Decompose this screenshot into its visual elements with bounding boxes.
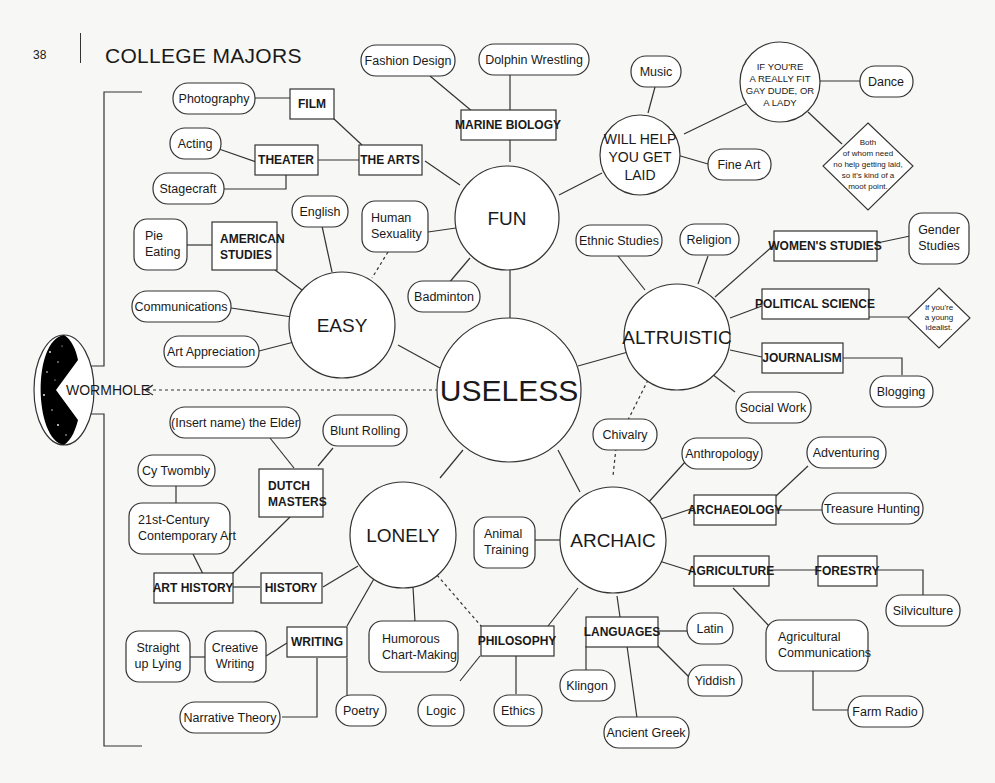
pill-blogging[interactable]: Blogging [870, 376, 933, 407]
box-womens-studies[interactable]: WOMEN'S STUDIES [768, 231, 882, 261]
box-philosophy[interactable]: PHILOSOPHY [478, 626, 557, 656]
pill-label: Music [640, 65, 673, 79]
pill-label: Ethics [501, 704, 535, 718]
pill-label: Dolphin Wrestling [485, 53, 583, 67]
hub-altruistic[interactable]: ALTRUISTIC [622, 284, 731, 390]
pill-label: Yiddish [695, 674, 736, 688]
pill-fine-art[interactable]: Fine Art [708, 149, 771, 180]
box-marine-biology[interactable]: MARINE BIOLOGY [455, 110, 561, 140]
pill-label-line: Sexuality [371, 227, 422, 241]
pill-dolphin-wrestling[interactable]: Dolphin Wrestling [479, 44, 589, 75]
box-film[interactable]: FILM [290, 89, 334, 119]
pill-narrative-theory[interactable]: Narrative Theory [180, 702, 280, 733]
pill-label-line: up Lying [135, 657, 182, 671]
pill-adventuring[interactable]: Adventuring [807, 437, 886, 468]
pill-animal-training[interactable]: Animal Training [474, 517, 535, 568]
pill-humorous-chart-making[interactable]: Humorous Chart-Making [369, 621, 458, 672]
box-theater[interactable]: THEATER [255, 145, 318, 175]
box-label-line: MASTERS [268, 495, 327, 509]
pill-label: Stagecraft [160, 182, 218, 196]
note-line: a young [925, 313, 953, 322]
pill-religion[interactable]: Religion [680, 224, 739, 255]
hub-lonely[interactable]: LONELY [350, 482, 456, 588]
pill-communications[interactable]: Communications [132, 291, 231, 322]
pill-label: Photography [179, 92, 251, 106]
pill-fashion-design[interactable]: Fashion Design [361, 45, 455, 76]
pill-straight-up-lying[interactable]: Straight up Lying [126, 631, 190, 682]
pill-label: Latin [696, 622, 723, 636]
pill-silviculture[interactable]: Silviculture [886, 595, 960, 626]
box-languages[interactable]: LANGUAGES [584, 617, 661, 647]
pill-blunt-rolling[interactable]: Blunt Rolling [323, 415, 407, 446]
pill-human-sexuality[interactable]: Human Sexuality [362, 201, 428, 252]
wormhole[interactable]: WORMHOLE [34, 335, 150, 445]
hub-fun[interactable]: FUN [455, 166, 559, 270]
pill-stagecraft[interactable]: Stagecraft [153, 173, 224, 204]
pill-21st-century-contemporary-art[interactable]: 21st-Century Contemporary Art [129, 503, 236, 554]
pill-social-work[interactable]: Social Work [736, 392, 811, 423]
pill-chivalry[interactable]: Chivalry [593, 419, 657, 450]
box-the-arts[interactable]: THE ARTS [359, 145, 422, 175]
box-label: FILM [298, 97, 326, 111]
box-archaeology[interactable]: ARCHAEOLOGY [688, 495, 783, 525]
pill-creative-writing[interactable]: Creative Writing [205, 631, 266, 682]
hub-will-help-you-get-laid[interactable]: WILL HELP YOU GET LAID [600, 115, 680, 195]
pill-english[interactable]: English [292, 196, 348, 227]
pill-label: Dance [868, 75, 904, 89]
pill-label: Blunt Rolling [330, 424, 400, 438]
box-history[interactable]: HISTORY [261, 573, 322, 603]
box-forestry[interactable]: FORESTRY [815, 556, 880, 586]
hub-easy[interactable]: EASY [289, 272, 395, 378]
pill-label-line: Chart-Making [382, 648, 457, 662]
pill-poetry[interactable]: Poetry [336, 695, 386, 726]
hub-archaic[interactable]: ARCHAIC [560, 487, 666, 593]
box-label: JOURNALISM [762, 351, 841, 365]
note-line: so it's kind of a [842, 171, 895, 180]
pill-label: Silviculture [893, 604, 953, 618]
pill-agricultural-communications[interactable]: Agricultural Communications [766, 620, 871, 671]
box-label: WOMEN'S STUDIES [768, 239, 882, 253]
pill-insert-name-the-elder[interactable]: (Insert name) the Elder [170, 407, 300, 438]
box-label: HISTORY [265, 581, 318, 595]
pill-logic[interactable]: Logic [418, 695, 464, 726]
pill-farm-radio[interactable]: Farm Radio [848, 696, 923, 727]
note-line: of whom need [843, 149, 893, 158]
pill-cy-twombly[interactable]: Cy Twombly [138, 455, 215, 486]
box-journalism[interactable]: JOURNALISM [762, 343, 843, 373]
pill-art-appreciation[interactable]: Art Appreciation [164, 336, 259, 367]
box-political-science[interactable]: POLITICAL SCIENCE [755, 289, 875, 319]
box-writing[interactable]: WRITING [287, 627, 347, 657]
pill-klingon[interactable]: Klingon [560, 670, 615, 701]
pill-pie-eating[interactable]: Pie Eating [134, 219, 187, 270]
box-label-line: STUDIES [220, 248, 272, 262]
hub-label: ARCHAIC [570, 530, 656, 551]
pill-anthropology[interactable]: Anthropology [682, 438, 762, 469]
pill-ethnic-studies[interactable]: Ethnic Studies [576, 225, 662, 256]
pill-ancient-greek[interactable]: Ancient Greek [604, 717, 689, 748]
pill-dance[interactable]: Dance [860, 66, 913, 97]
hub-label: ALTRUISTIC [622, 327, 731, 348]
pill-ethics[interactable]: Ethics [494, 695, 542, 726]
pill-music[interactable]: Music [631, 56, 681, 87]
pill-label-line: Contemporary Art [138, 529, 236, 543]
pill-yiddish[interactable]: Yiddish [688, 665, 742, 696]
box-art-history[interactable]: ART HISTORY [153, 573, 234, 603]
hub-label-line: A LADY [763, 97, 797, 108]
box-label: PHILOSOPHY [478, 634, 557, 648]
hub-really-fit-gay-dude-or-lady[interactable]: IF YOU'RE A REALLY FIT GAY DUDE, OR A LA… [740, 42, 820, 122]
pill-photography[interactable]: Photography [173, 83, 255, 114]
box-agriculture[interactable]: AGRICULTURE [688, 556, 774, 586]
hub-useless[interactable]: USELESS [437, 318, 581, 462]
pill-label: Adventuring [813, 446, 880, 460]
pill-badminton[interactable]: Badminton [408, 281, 480, 312]
hub-label-line: GAY DUDE, OR [746, 85, 814, 96]
pill-latin[interactable]: Latin [687, 613, 733, 644]
pill-label-line: 21st-Century [138, 513, 210, 527]
pill-acting[interactable]: Acting [170, 128, 221, 159]
hub-label: LONELY [366, 525, 440, 546]
pill-label: Communications [134, 300, 227, 314]
box-american-studies[interactable]: AMERICAN STUDIES [212, 222, 285, 270]
box-dutch-masters[interactable]: DUTCH MASTERS [259, 469, 327, 517]
pill-treasure-hunting[interactable]: Treasure Hunting [822, 493, 923, 524]
pill-gender-studies[interactable]: Gender Studies [909, 213, 969, 264]
